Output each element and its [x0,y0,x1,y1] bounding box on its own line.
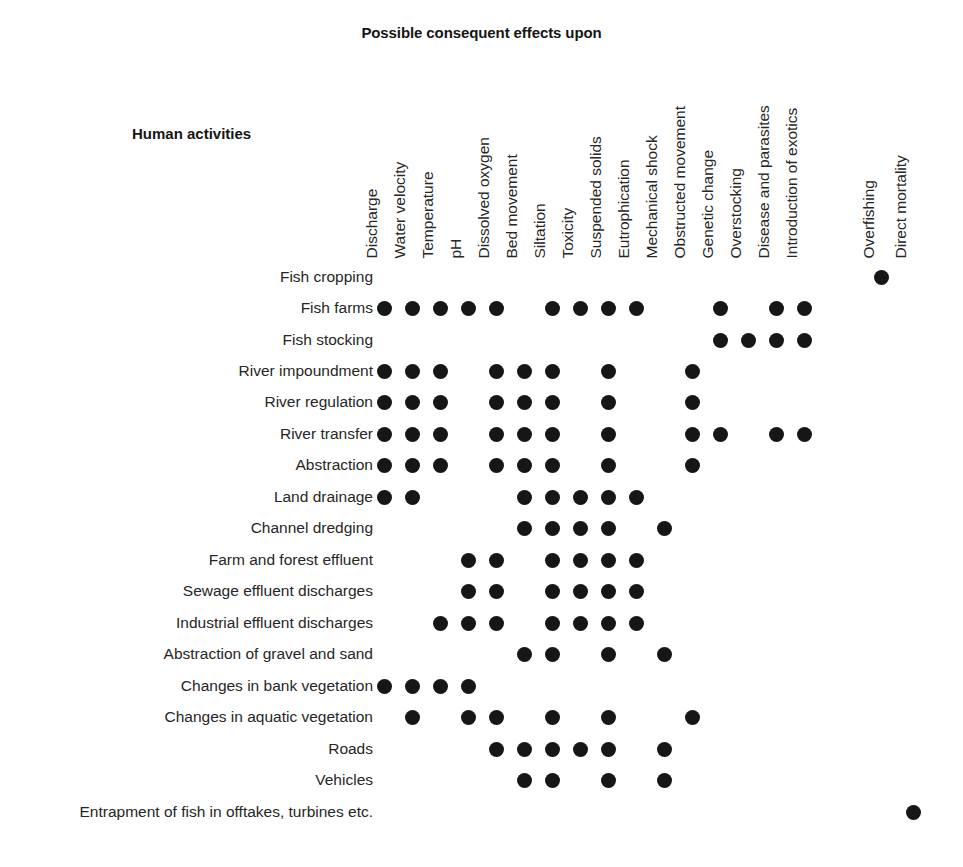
matrix-dot [545,458,560,473]
matrix-dot [433,427,448,442]
matrix-dot [433,301,448,316]
matrix-dot [545,553,560,568]
matrix-dot [769,301,784,316]
matrix-dot [461,553,476,568]
matrix-dot [489,427,504,442]
matrix-dot [601,458,616,473]
matrix-dot [433,679,448,694]
matrix-dot [489,301,504,316]
matrix-dot [797,333,812,348]
matrix-dot [769,427,784,442]
matrix-dot [377,427,392,442]
matrix-dot [545,427,560,442]
matrix-dot [545,301,560,316]
matrix-dot [545,521,560,536]
matrix-dot [377,679,392,694]
matrix-dot [377,395,392,410]
matrix-dot [713,427,728,442]
matrix-dot [685,395,700,410]
matrix-dot [461,679,476,694]
matrix-dot [517,773,532,788]
matrix-dot [629,301,644,316]
matrix-dot [906,805,921,820]
matrix-dot-layer [0,0,963,867]
matrix-dot [377,490,392,505]
matrix-dot [601,395,616,410]
matrix-dot [461,301,476,316]
matrix-dot [489,616,504,631]
matrix-dot [601,427,616,442]
matrix-dot [601,490,616,505]
matrix-dot [573,490,588,505]
matrix-dot [489,364,504,379]
matrix-dot [545,710,560,725]
matrix-dot [797,301,812,316]
matrix-dot [657,521,672,536]
matrix-dot [713,333,728,348]
matrix-dot [517,490,532,505]
matrix-dot [874,270,889,285]
matrix-dot [433,364,448,379]
matrix-dot [517,742,532,757]
matrix-dot [545,742,560,757]
matrix-dot [601,773,616,788]
matrix-dot [461,584,476,599]
matrix-dot [685,710,700,725]
matrix-dot [405,395,420,410]
matrix-dot [545,647,560,662]
matrix-dot [601,301,616,316]
matrix-dot [741,333,756,348]
matrix-dot [545,395,560,410]
matrix-dot [489,710,504,725]
effects-matrix-chart: Possible consequent effects upon Human a… [0,0,963,867]
matrix-dot [517,395,532,410]
matrix-dot [405,458,420,473]
matrix-dot [601,710,616,725]
matrix-dot [601,742,616,757]
matrix-dot [573,553,588,568]
matrix-dot [489,395,504,410]
matrix-dot [377,364,392,379]
matrix-dot [517,647,532,662]
matrix-dot [433,616,448,631]
matrix-dot [629,490,644,505]
matrix-dot [405,490,420,505]
matrix-dot [405,364,420,379]
matrix-dot [545,616,560,631]
matrix-dot [601,521,616,536]
matrix-dot [657,647,672,662]
matrix-dot [517,364,532,379]
matrix-dot [629,584,644,599]
matrix-dot [657,773,672,788]
matrix-dot [489,742,504,757]
matrix-dot [573,521,588,536]
matrix-dot [377,458,392,473]
matrix-dot [517,427,532,442]
matrix-dot [629,553,644,568]
matrix-dot [461,616,476,631]
matrix-dot [601,647,616,662]
matrix-dot [433,458,448,473]
matrix-dot [713,301,728,316]
matrix-dot [545,773,560,788]
matrix-dot [405,710,420,725]
matrix-dot [405,679,420,694]
matrix-dot [545,364,560,379]
matrix-dot [489,553,504,568]
matrix-dot [377,301,392,316]
matrix-dot [433,395,448,410]
matrix-dot [405,301,420,316]
matrix-dot [573,584,588,599]
matrix-dot [685,364,700,379]
matrix-dot [797,427,812,442]
matrix-dot [601,553,616,568]
matrix-dot [685,458,700,473]
matrix-dot [685,427,700,442]
matrix-dot [489,584,504,599]
matrix-dot [405,427,420,442]
matrix-dot [545,584,560,599]
matrix-dot [489,458,504,473]
matrix-dot [601,616,616,631]
matrix-dot [601,584,616,599]
matrix-dot [545,490,560,505]
